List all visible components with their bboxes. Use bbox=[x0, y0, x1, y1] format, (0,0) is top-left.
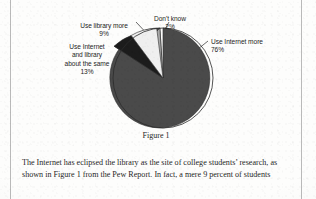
pie-label-about-the-same: Use Internet and library about the same … bbox=[46, 35, 128, 84]
pie-label-use-internet-more: Use Internet more 76% bbox=[211, 30, 295, 63]
pie-label-about-the-same-text: Use Internet and library about the same bbox=[65, 43, 110, 66]
pie-label-use-library-more-text: Use library more bbox=[80, 22, 128, 29]
figure-caption: Figure 1 bbox=[12, 131, 300, 140]
page-border-left-rule bbox=[10, 0, 11, 199]
body-paragraph-line-1: The Internet has eclipsed the library as… bbox=[22, 157, 290, 169]
pie-label-use-internet-more-percent: 76% bbox=[211, 46, 295, 54]
body-paragraph-line-2: shown in Figure 1 from the Pew Report. I… bbox=[22, 169, 290, 181]
body-paragraph: The Internet has eclipsed the library as… bbox=[22, 157, 290, 180]
pie-label-use-internet-more-text: Use Internet more bbox=[211, 38, 263, 45]
pie-label-dont-know-text: Don't know bbox=[154, 15, 186, 22]
figure-1: Use library more 9% Use Internet and lib… bbox=[12, 0, 300, 146]
page-border-right-rule bbox=[301, 0, 302, 199]
pie-label-about-the-same-percent: 13% bbox=[46, 68, 128, 76]
pie-label-dont-know: Don't know 2% bbox=[139, 7, 201, 40]
pie-label-dont-know-percent: 2% bbox=[139, 23, 201, 31]
scanned-page: Use library more 9% Use Internet and lib… bbox=[0, 0, 316, 199]
